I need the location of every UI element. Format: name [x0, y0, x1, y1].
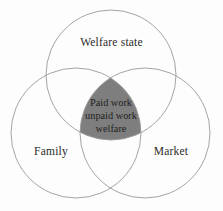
intersection-line-unpaid-work: unpaid work — [61, 109, 161, 122]
triple-intersection-label: Paid work unpaid work welfare — [61, 96, 161, 136]
intersection-line-paid-work: Paid work — [61, 96, 161, 109]
venn-diagram: Welfare state Family Market Paid work un… — [0, 0, 223, 211]
circle-label-market: Market — [133, 145, 209, 158]
intersection-line-welfare: welfare — [61, 122, 161, 135]
circle-label-welfare-state: Welfare state — [0, 36, 223, 49]
circle-label-family: Family — [13, 145, 89, 158]
